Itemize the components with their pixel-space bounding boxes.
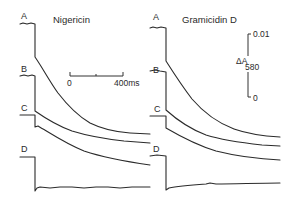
abs-scale-top: 0.01	[253, 29, 270, 39]
trace-label-d-left: D	[21, 144, 28, 154]
abs-scale-subscript: 580	[245, 62, 259, 72]
panel-title-gramicidin: Gramicidin D	[182, 14, 237, 25]
trace-label-c-left: C	[21, 103, 28, 113]
trace-label-d-right: D	[153, 144, 160, 154]
panel-gramicidin-d: Gramicidin D A B C D 0.01 0 ΔA 580	[150, 12, 280, 190]
trace-b-right	[150, 70, 280, 146]
absorbance-scale-bar: 0.01 0 ΔA 580	[236, 29, 270, 103]
trace-label-b-left: B	[21, 64, 27, 74]
panel-nigericin: Nigericin A B C D 0 400ms	[20, 11, 150, 191]
trace-d-right	[150, 155, 280, 190]
time-scale-zero: 0	[67, 78, 72, 88]
trace-label-c-right: C	[154, 104, 161, 114]
trace-a-right	[150, 27, 280, 137]
time-scale-end: 400ms	[114, 78, 140, 88]
panel-title-nigericin: Nigericin	[53, 14, 90, 25]
time-scale-bar: 0 400ms	[67, 72, 140, 88]
abs-scale-bottom: 0	[253, 93, 258, 103]
trace-label-a-right: A	[153, 12, 159, 22]
trace-c-left	[20, 115, 150, 165]
trace-label-a-left: A	[21, 11, 27, 21]
figure: Nigericin A B C D 0 400ms Gramicidin D A…	[0, 0, 293, 205]
